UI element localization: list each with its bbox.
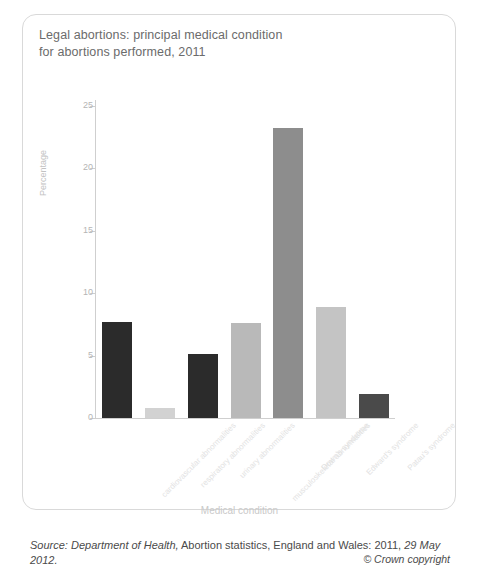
bar [273, 128, 303, 418]
plot-area: Percentage 0510152025 [95, 100, 395, 420]
y-axis-tick-label: 15 [53, 225, 93, 235]
y-axis-tick-label: 10 [53, 287, 93, 297]
x-axis-tick-labels: cardiovascular abnormalitiesrespiratory … [95, 421, 405, 511]
bar [359, 394, 389, 418]
x-axis-tick-label: urinary abnormalities [238, 421, 297, 480]
source-department: Source: Department of Health, [30, 539, 179, 551]
source-publication: Abortion statistics, England and Wales: … [179, 539, 405, 551]
y-axis-tick-label: 0 [53, 412, 93, 422]
bar [145, 408, 175, 418]
chart-title-line-1: Legal abortions: principal medical condi… [39, 27, 399, 44]
chart-title: Legal abortions: principal medical condi… [39, 27, 399, 61]
copyright-note: © Crown copyright [30, 553, 450, 565]
bar [316, 307, 346, 418]
x-axis-tick-label: Down's syndrome [320, 421, 371, 472]
chart-title-line-2: for abortions performed, 2011 [39, 44, 399, 61]
x-axis-line [95, 418, 395, 419]
bar [102, 322, 132, 418]
screenshot-root: Legal abortions: principal medical condi… [0, 0, 479, 571]
x-axis-title: Medical condition [0, 505, 479, 516]
y-axis-tick-label: 5 [53, 350, 93, 360]
y-axis-tick-label: 25 [53, 100, 93, 110]
bar [188, 354, 218, 418]
y-axis-title: Percentage [38, 150, 48, 196]
bar-series [96, 100, 395, 418]
bar [231, 323, 261, 418]
y-axis-tick-label: 20 [53, 162, 93, 172]
